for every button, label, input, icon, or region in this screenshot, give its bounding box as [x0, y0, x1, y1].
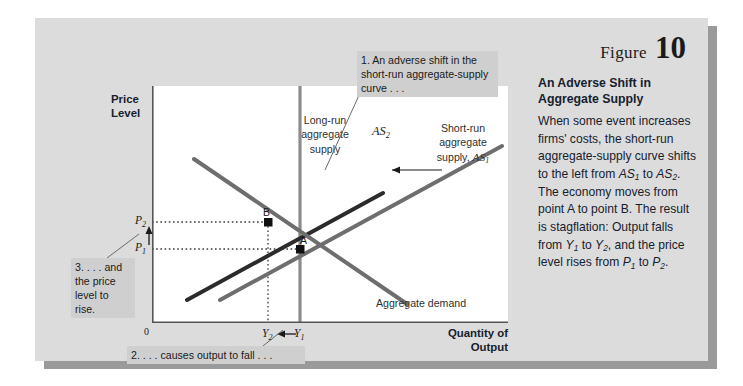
- callout-step-1: 1. An adverse shift in the short-run agg…: [357, 51, 498, 97]
- caption-seg-p2: P2: [652, 255, 665, 269]
- figure-number: 10: [655, 32, 686, 63]
- caption-seg-18: .: [665, 255, 668, 269]
- caption-seg-9: to: [578, 238, 595, 252]
- caption-seg-as2: AS2: [656, 167, 677, 181]
- figure-number-row: Figure 10: [600, 32, 686, 63]
- caption-seg-3: to: [639, 167, 656, 181]
- caption-seg-15: to: [635, 255, 652, 269]
- caption-seg-y2: Y2: [595, 238, 608, 252]
- caption-seg-p1: P1: [623, 255, 636, 269]
- figure-caption: When some event increases firms' costs, …: [538, 113, 696, 272]
- figure-word: Figure: [600, 43, 647, 63]
- callout-step-2: 2. . . . causes output to fall . . .: [127, 346, 305, 364]
- caption-seg-as1: AS1: [619, 167, 640, 181]
- caption-seg-y1: Y1: [566, 238, 579, 252]
- card-shadow-right: [708, 26, 717, 369]
- figure-card: Price Level Quantity of Output 0 P2 P1 Y…: [35, 18, 708, 361]
- figure-title: An Adverse Shift in Aggregate Supply: [538, 76, 694, 107]
- callout-step-3: 3. . . . and the price level to rise.: [71, 258, 135, 318]
- figure-text-column: Figure 10 An Adverse Shift in Aggregate …: [520, 18, 708, 361]
